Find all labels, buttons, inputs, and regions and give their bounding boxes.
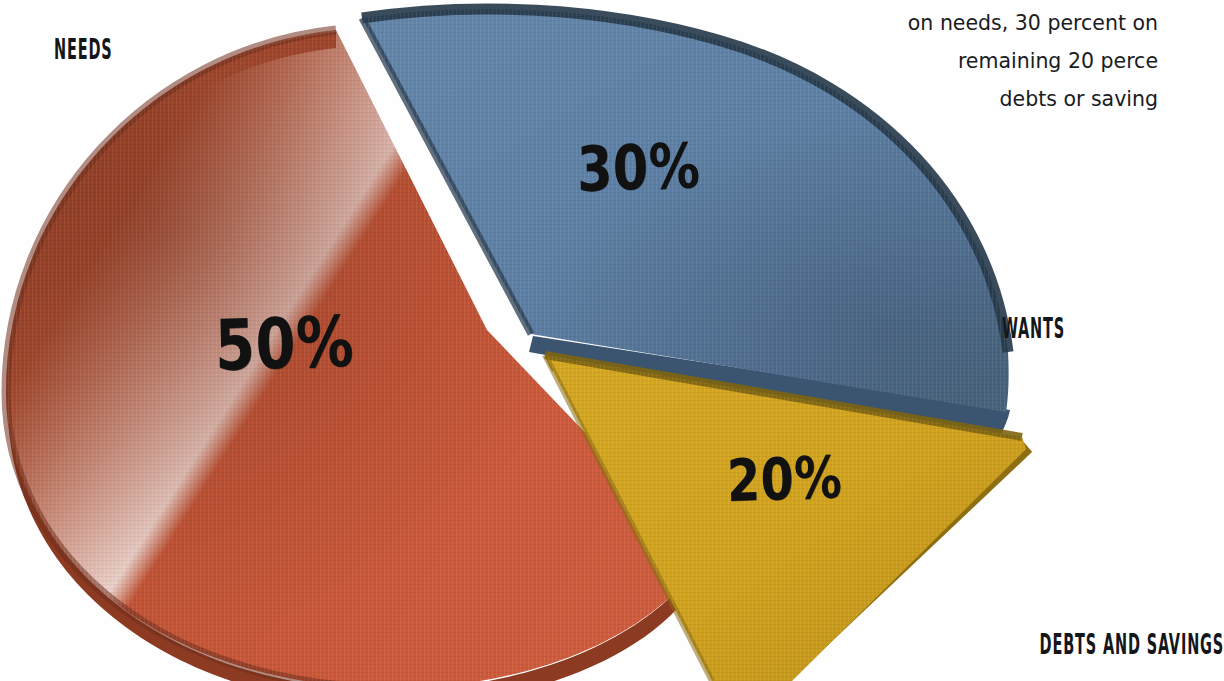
slice-label-needs: NEEDS (54, 33, 113, 65)
slice-label-debts: DEBTS AND SAVINGS (1040, 628, 1224, 660)
slice-label-wants: WANTS (1002, 312, 1065, 344)
body-copy-line-1: on needs, 30 percent on (738, 4, 1158, 42)
slice-value-debts: 20% (726, 443, 843, 515)
body-copy-paragraph: on needs, 30 percent on remaining 20 per… (738, 4, 1158, 118)
slice-value-needs: 50% (214, 301, 355, 387)
body-copy-line-3: debts or saving (738, 80, 1158, 118)
slice-value-wants: 30% (576, 129, 701, 206)
body-copy-line-2: remaining 20 perce (738, 42, 1158, 80)
